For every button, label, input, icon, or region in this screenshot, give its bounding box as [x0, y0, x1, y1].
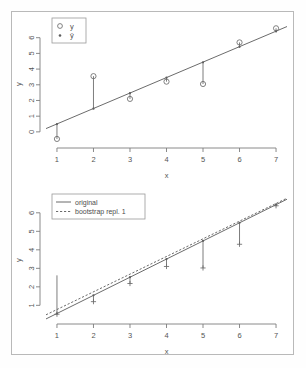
- y-tick-label: 3: [28, 266, 37, 270]
- y-tick-label: 6: [28, 211, 37, 215]
- y-axis-title: y: [14, 258, 23, 262]
- y-tick-label: 2: [28, 98, 37, 102]
- legend-label: ŷ: [70, 31, 74, 40]
- y-tick-label: 4: [28, 67, 37, 71]
- x-axis-title: x: [165, 347, 169, 356]
- x-tick-label: 6: [237, 331, 241, 340]
- x-tick-label: 1: [55, 155, 59, 164]
- x-axis-title: x: [165, 171, 169, 180]
- x-tick-label: 4: [164, 155, 168, 164]
- y-tick-label: 1: [28, 114, 37, 118]
- legend-label: y: [70, 22, 74, 31]
- regression-bootstrap-figure: 12345670123456xyyŷ 1234567123456xyorigin…: [0, 0, 306, 368]
- fitted-point: [165, 258, 167, 260]
- panel-observed-vs-fitted: 12345670123456xyyŷ: [0, 0, 306, 184]
- fitted-point: [238, 46, 240, 48]
- x-tick-label: 7: [274, 331, 278, 340]
- fitted-point: [165, 77, 167, 79]
- fitted-point: [238, 222, 240, 224]
- legend-label: bootstrap repl. 1: [75, 208, 126, 216]
- legend-marker-fitted: [59, 34, 62, 37]
- y-tick-label: 5: [28, 229, 37, 233]
- x-tick-label: 1: [55, 331, 59, 340]
- x-tick-label: 6: [237, 155, 241, 164]
- x-tick-label: 3: [128, 155, 132, 164]
- y-tick-label: 4: [28, 248, 37, 252]
- y-tick-label: 6: [28, 36, 37, 40]
- x-tick-label: 5: [201, 155, 205, 164]
- y-tick-label: 5: [28, 51, 37, 55]
- legend-box: [52, 18, 86, 43]
- fitted-point: [92, 294, 94, 296]
- top-panel-plot: 12345670123456xyyŷ: [0, 0, 306, 184]
- panel-bootstrap-comparison: 1234567123456xyoriginalbootstrap repl. 1: [0, 184, 306, 368]
- y-axis-title: y: [14, 82, 23, 86]
- bottom-panel-plot: 1234567123456xyoriginalbootstrap repl. 1: [0, 184, 306, 368]
- y-tick-label: 3: [28, 83, 37, 87]
- x-tick-label: 5: [201, 331, 205, 340]
- x-tick-label: 7: [274, 155, 278, 164]
- y-tick-label: 2: [28, 285, 37, 289]
- x-tick-label: 3: [128, 331, 132, 340]
- x-tick-label: 2: [91, 331, 95, 340]
- fitted-point: [92, 108, 94, 110]
- fitted-point: [202, 240, 204, 242]
- fitted-point: [129, 92, 131, 94]
- fitted-point: [202, 61, 204, 63]
- x-tick-label: 2: [91, 155, 95, 164]
- legend-box: [52, 194, 145, 219]
- fitted-point: [56, 123, 58, 125]
- x-tick-label: 4: [164, 331, 168, 340]
- y-tick-label: 0: [28, 130, 37, 134]
- legend-label: original: [75, 199, 98, 207]
- fitted-point: [129, 276, 131, 278]
- y-tick-label: 1: [28, 303, 37, 307]
